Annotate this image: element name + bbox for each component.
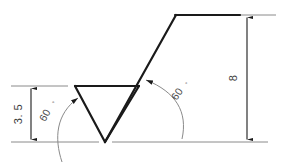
left-angle-degree-symbol: °	[51, 100, 58, 106]
right-dimension-group: 8	[227, 18, 247, 140]
object-outline	[75, 15, 240, 142]
left-angle-value: 60	[36, 107, 53, 124]
left-angle-arc	[58, 98, 78, 162]
right-angle-group: 60 °	[146, 80, 191, 139]
right-angle-degree-symbol: °	[184, 81, 191, 87]
technical-drawing-canvas: 3. 5 8 60 ° 60 °	[0, 0, 286, 165]
left-angle-group: 60 °	[36, 98, 78, 162]
triangle-left-edge	[75, 86, 105, 142]
left-dimension-group: 3. 5	[12, 89, 31, 140]
right-angle-value: 60	[168, 85, 185, 102]
left-dimension-value: 3. 5	[12, 104, 24, 124]
drawing-svg: 3. 5 8 60 ° 60 °	[0, 0, 286, 165]
diagonal-flank	[105, 15, 176, 142]
right-dimension-value: 8	[227, 75, 239, 82]
